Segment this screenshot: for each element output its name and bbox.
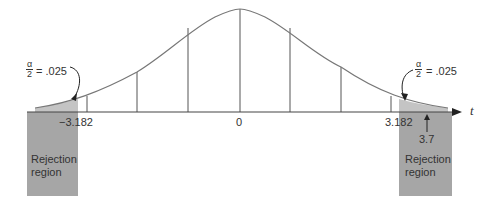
axis-t-label: t	[470, 105, 474, 117]
right-alpha-fraction: α 2	[415, 60, 422, 79]
density-curve	[35, 9, 448, 108]
center-label: 0	[236, 116, 242, 128]
left-tail-shading	[35, 99, 78, 112]
ordinate-lines	[87, 9, 391, 112]
right-critical-label: 3.182	[385, 116, 413, 128]
right-tail-shading	[399, 99, 448, 112]
left-region-label: Rejection region	[31, 153, 77, 178]
left-alpha-fraction: α 2	[26, 60, 33, 79]
right-region-label: Rejection region	[405, 153, 451, 178]
left-alpha-arrow	[70, 67, 80, 98]
left-alpha-value: = .025	[36, 65, 67, 77]
axis-arrowhead	[452, 108, 462, 116]
observed-value-label: 3.7	[419, 133, 434, 145]
right-alpha-value: = .025	[426, 65, 457, 77]
left-critical-label: −3.182	[59, 116, 93, 128]
